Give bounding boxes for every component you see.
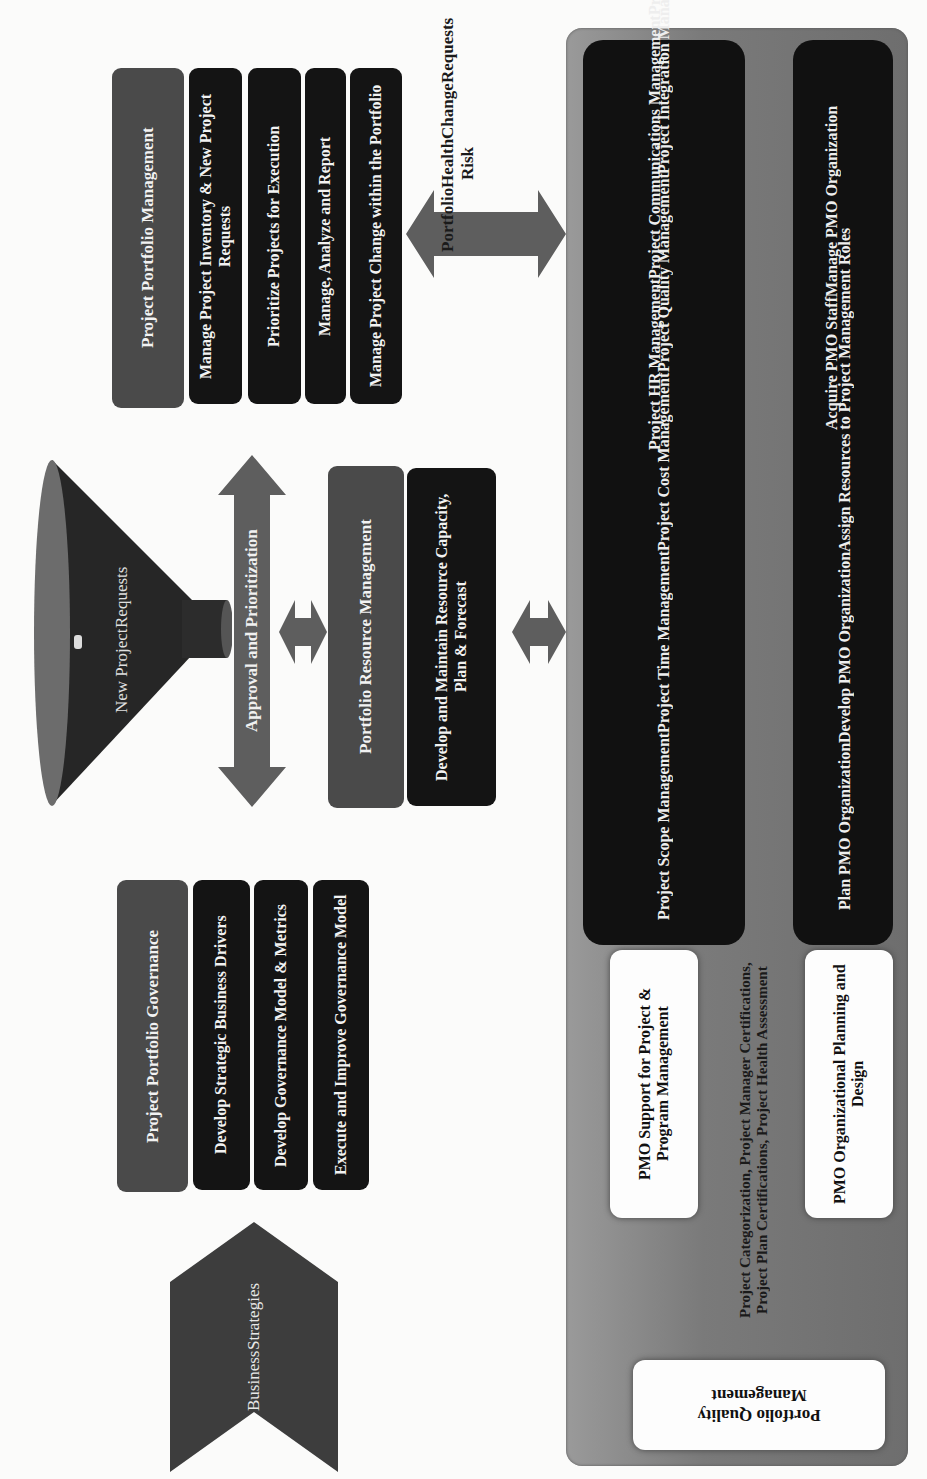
portfolio-governance-header: Project Portfolio Governance: [117, 880, 188, 1192]
management-item-1: Manage Project Inventory & New Project R…: [189, 68, 242, 404]
health-risk-label: Portfolio Health Risk Change Requests: [438, 75, 538, 195]
management-item-4: Manage Project Change within the Portfol…: [350, 68, 402, 404]
double-arrow-small-left-icon: [279, 600, 327, 664]
double-arrow-small-right-icon: [512, 600, 566, 664]
project-mgmt-list-left: Project Scope Management Project Time Ma…: [588, 520, 740, 920]
funnel-label-2: Requests: [112, 567, 132, 628]
business-strategies-label-2: Strategies: [244, 1283, 264, 1350]
governance-item-3: Execute and Improve Governance Model: [313, 880, 369, 1190]
org-list-left: Plan PMO Organization Develop PMO Organi…: [797, 440, 893, 910]
resource-item-1: Develop and Maintain Resource Capacity, …: [407, 468, 496, 806]
business-strategies-chevron: Business Strategies: [170, 1222, 338, 1472]
management-item-3: Manage, Analyze and Report: [305, 68, 346, 404]
approval-prioritization-arrow: Approval and Prioritization: [218, 455, 286, 807]
management-item-2: Prioritize Projects for Execution: [248, 68, 301, 404]
new-project-requests-funnel: New Project Requests: [22, 455, 232, 815]
portfolio-quality-box: Portfolio Quality Management: [633, 1360, 885, 1450]
pmo-support-box: PMO Support for Project & Program Manage…: [610, 950, 698, 1218]
pmo-org-planning-box: PMO Organizational Planning and Design: [805, 950, 893, 1218]
org-list-right: Acquire PMO Staff Manage PMO Organizatio…: [797, 100, 867, 430]
governance-item-2: Develop Governance Model & Metrics: [254, 880, 308, 1190]
project-mgmt-list-right: Project HR Management Project Communicat…: [590, 60, 720, 450]
assessment-text: Project Categorization, Project Manager …: [718, 960, 790, 1320]
business-strategies-label-1: Business: [244, 1350, 264, 1410]
portfolio-management-header: Project Portfolio Management: [112, 68, 184, 408]
approval-label: Approval and Prioritization: [242, 530, 262, 733]
governance-item-1: Develop Strategic Business Drivers: [193, 880, 250, 1190]
health-risk-double-arrow-icon: [406, 190, 566, 278]
funnel-label-1: New Project: [112, 628, 132, 713]
resource-management-header: Portfolio Resource Management: [328, 466, 404, 808]
